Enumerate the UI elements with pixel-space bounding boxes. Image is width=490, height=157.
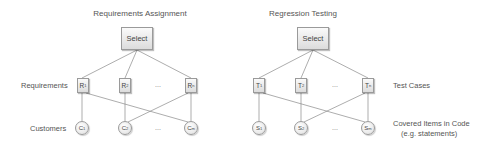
test-case-node-t2: T2	[295, 78, 307, 93]
node-subscript: 1	[260, 83, 262, 88]
requirement-node-r2: R2	[119, 78, 131, 93]
statements-ellipsis: ...	[332, 124, 338, 131]
node-subscript: m	[368, 126, 371, 131]
test-case-node-t1: T1	[253, 78, 265, 93]
right-diagram-title: Regression Testing	[269, 9, 337, 18]
left-diagram-title: Requirements Assignment	[93, 9, 186, 18]
customer-node-cm: Cm	[184, 121, 198, 135]
node-subscript: n	[192, 83, 194, 88]
customers-ellipsis: ...	[155, 124, 161, 131]
node-subscript: n	[369, 83, 371, 88]
requirement-node-rn: Rn	[185, 78, 197, 93]
customer-node-c1: C1	[75, 121, 89, 135]
requirements-ellipsis: ...	[155, 81, 161, 88]
requirements-row-label: Requirements	[21, 81, 68, 90]
node-subscript: 2	[126, 83, 128, 88]
node-subscript: 1	[84, 83, 86, 88]
covered-items-row-label: Covered Items in Code	[393, 119, 470, 128]
test-cases-ellipsis: ...	[332, 81, 338, 88]
customers-row-label: Customers	[30, 124, 66, 133]
covered-items-example-label: (e.g. statements)	[401, 129, 457, 138]
node-subscript: 2	[302, 126, 304, 131]
requirement-node-r1: R1	[77, 78, 89, 93]
customer-node-c2: C2	[118, 121, 132, 135]
node-subscript: m	[192, 126, 195, 131]
node-subscript: 1	[83, 126, 85, 131]
right-select-node: Select	[297, 27, 329, 50]
node-subscript: 1	[260, 126, 262, 131]
test-case-node-tn: Tn	[362, 78, 374, 93]
test-cases-row-label: Test Cases	[393, 81, 430, 90]
statement-node-sm: Sm	[361, 121, 375, 135]
left-select-node: Select	[121, 27, 153, 50]
statement-node-s1: S1	[252, 121, 266, 135]
statement-node-s2: S2	[294, 121, 308, 135]
node-subscript: 2	[302, 83, 304, 88]
node-subscript: 2	[126, 126, 128, 131]
